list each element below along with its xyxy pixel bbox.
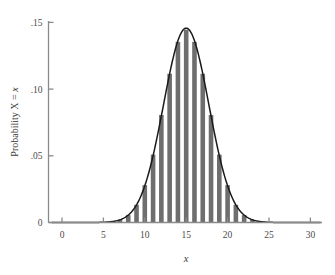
y-axis-title-variable: x xyxy=(9,87,20,93)
y-axis-tick-label: .05 xyxy=(31,151,43,161)
chart-figure: 0.05.10.15 051015202530 Probability X = … xyxy=(0,0,335,275)
x-axis-tick-label: 30 xyxy=(306,230,316,240)
binomial-distribution-chart: 0.05.10.15 051015202530 Probability X = … xyxy=(0,0,335,275)
y-axis-tick-label: .10 xyxy=(31,85,43,95)
x-axis-title: x xyxy=(183,253,189,264)
histogram-bar xyxy=(184,30,189,223)
y-axis-tick-label: .15 xyxy=(31,18,43,28)
histogram-bar xyxy=(209,115,214,223)
x-axis-tick-label: 15 xyxy=(181,230,191,240)
x-axis-tick-label: 20 xyxy=(223,230,233,240)
x-axis-tick-label: 10 xyxy=(140,230,150,240)
histogram-bar xyxy=(176,42,181,223)
x-axis-tick-label: 25 xyxy=(264,230,274,240)
y-axis-title: Probability X = x xyxy=(9,87,20,157)
y-axis-tick-label: 0 xyxy=(38,218,43,228)
histogram-bar xyxy=(159,115,164,223)
histogram-bar xyxy=(167,74,172,223)
x-axis-tick-label: 5 xyxy=(101,230,106,240)
y-axis-title-text: Probability X = x xyxy=(9,87,20,157)
histogram-bar xyxy=(192,42,197,223)
histogram-bar xyxy=(200,74,205,223)
y-axis-title-static: Probability X = xyxy=(9,92,20,157)
x-axis-tick-label: 0 xyxy=(60,230,65,240)
